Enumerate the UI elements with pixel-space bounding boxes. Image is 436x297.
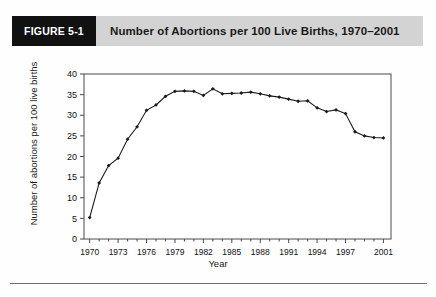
svg-text:1973: 1973 <box>109 247 128 257</box>
svg-text:1991: 1991 <box>279 247 298 257</box>
plot-frame <box>84 74 391 239</box>
footer-rule <box>10 283 427 284</box>
svg-text:1997: 1997 <box>336 247 355 257</box>
svg-text:25: 25 <box>67 131 77 141</box>
svg-text:1976: 1976 <box>137 247 156 257</box>
plot-area: 0510152025303540 19701973197619791982198… <box>0 0 436 297</box>
svg-text:1982: 1982 <box>194 247 213 257</box>
svg-text:1979: 1979 <box>166 247 185 257</box>
svg-text:1988: 1988 <box>251 247 270 257</box>
svg-text:10: 10 <box>67 193 77 203</box>
svg-text:0: 0 <box>72 234 77 244</box>
svg-text:30: 30 <box>67 110 77 120</box>
svg-text:1994: 1994 <box>308 247 327 257</box>
svg-text:20: 20 <box>67 152 77 162</box>
svg-text:15: 15 <box>67 172 77 182</box>
svg-text:1970: 1970 <box>80 247 99 257</box>
svg-text:5: 5 <box>72 214 77 224</box>
svg-text:2001: 2001 <box>374 247 393 257</box>
line-chart: 0510152025303540 19701973197619791982198… <box>0 0 436 297</box>
svg-text:40: 40 <box>67 69 77 79</box>
x-axis-ticks: 1970197319761979198219851988199119941997… <box>80 239 393 257</box>
x-axis-title: Year <box>0 258 436 269</box>
figure-container: FIGURE 5-1 Number of Abortions per 100 L… <box>0 0 436 297</box>
y-axis-ticks: 0510152025303540 <box>67 69 84 244</box>
svg-text:1985: 1985 <box>222 247 241 257</box>
svg-text:35: 35 <box>67 90 77 100</box>
